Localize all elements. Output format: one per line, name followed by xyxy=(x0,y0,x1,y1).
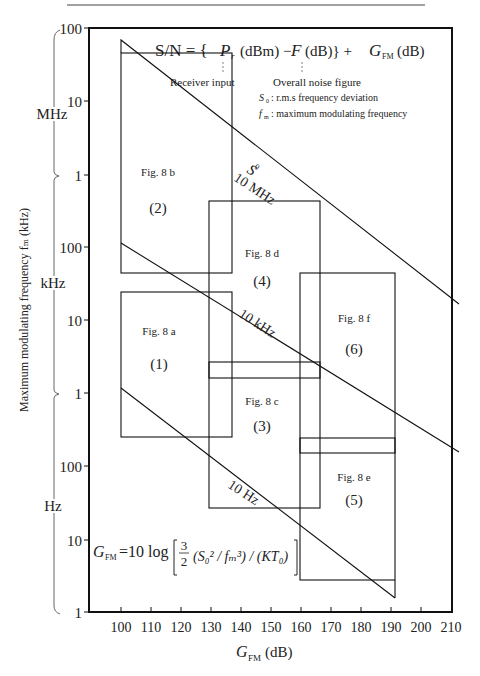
region-8c-box xyxy=(209,362,320,508)
svg-text:130: 130 xyxy=(201,620,222,635)
s0-lines xyxy=(121,40,459,598)
svg-text:F: F xyxy=(290,41,302,60)
svg-text:100: 100 xyxy=(111,620,132,635)
svg-text:G: G xyxy=(236,643,248,660)
svg-text:(dB): (dB) xyxy=(397,43,425,60)
svg-text:Fig. 8 f: Fig. 8 f xyxy=(338,312,370,324)
svg-text:10: 10 xyxy=(67,313,82,329)
svg-text:(dB): (dB) xyxy=(265,644,293,661)
svg-text:1: 1 xyxy=(75,386,83,402)
svg-text:FM: FM xyxy=(248,653,261,663)
svg-text:Hz: Hz xyxy=(44,498,62,514)
svg-text:Fig. 8 e: Fig. 8 e xyxy=(337,471,370,483)
unit-labels: MHz kHz Hz xyxy=(37,106,68,514)
gfm-formula: G FM =10 log 3 2 (S₀² / fₘ³) / (KT₀) xyxy=(93,538,297,575)
svg-text:(6): (6) xyxy=(345,341,363,358)
line-labels: S 0 10 MHz 10 kHz 10 Hz xyxy=(225,161,278,508)
svg-text:1: 1 xyxy=(75,168,83,184)
svg-text:S/N = {: S/N = { xyxy=(155,41,208,60)
svg-text:(5): (5) xyxy=(345,492,363,509)
svg-text:0: 0 xyxy=(266,98,269,104)
svg-text:190: 190 xyxy=(381,620,402,635)
svg-text:: r.m.s frequency deviation: : r.m.s frequency deviation xyxy=(271,92,378,103)
svg-text:(1): (1) xyxy=(150,356,168,373)
y-axis-label: Maximum modulating frequency fₘ (kHz) xyxy=(17,208,31,412)
svg-text:Fig. 8 c: Fig. 8 c xyxy=(245,395,278,407)
svg-text:S: S xyxy=(259,92,264,103)
svg-text:3: 3 xyxy=(181,538,188,553)
svg-text:160: 160 xyxy=(291,620,312,635)
svg-text:=10 log: =10 log xyxy=(119,543,168,561)
svg-text:(dBm) −: (dBm) − xyxy=(240,43,291,60)
svg-text:2: 2 xyxy=(181,554,188,569)
svg-text:100: 100 xyxy=(60,459,83,475)
svg-text:f: f xyxy=(259,108,263,119)
svg-text:(dB)} +: (dB)} + xyxy=(305,43,352,60)
svg-text:FM: FM xyxy=(382,52,394,61)
svg-text:Fig. 8 b: Fig. 8 b xyxy=(141,166,175,178)
sn-formula: S/N = { P r (dBm) − F (dB)} + G FM (dB) xyxy=(155,41,425,61)
svg-text:kHz: kHz xyxy=(41,275,66,291)
legend: S 0 : r.m.s frequency deviation f m : ma… xyxy=(259,92,407,120)
svg-text:Fig. 8 d: Fig. 8 d xyxy=(245,247,279,259)
gfm-chart: 100 10 1 100 10 1 100 10 1 MHz kHz Hz Ma… xyxy=(0,0,480,676)
svg-text:120: 120 xyxy=(171,620,192,635)
svg-text:: maximum modulating frequency: : maximum modulating frequency xyxy=(271,108,407,119)
svg-text:10 MHz: 10 MHz xyxy=(231,170,278,208)
svg-text:MHz: MHz xyxy=(37,106,68,122)
svg-text:10: 10 xyxy=(67,533,82,549)
svg-text:G: G xyxy=(369,41,381,60)
svg-text:Fig. 8 a: Fig. 8 a xyxy=(142,325,175,337)
svg-text:G: G xyxy=(93,543,105,560)
svg-text:(2): (2) xyxy=(149,200,167,217)
svg-text:P: P xyxy=(219,41,230,60)
svg-text:(4): (4) xyxy=(253,273,271,290)
line-10khz xyxy=(121,243,459,452)
svg-text:210: 210 xyxy=(441,620,462,635)
svg-text:(3): (3) xyxy=(253,418,271,435)
x-axis-label: G FM (dB) xyxy=(236,643,293,663)
svg-text:100: 100 xyxy=(60,21,83,37)
svg-text:150: 150 xyxy=(261,620,282,635)
svg-text:10 kHz: 10 kHz xyxy=(236,306,278,341)
svg-text:(S₀² / fₘ³) / (KT₀): (S₀² / fₘ³) / (KT₀) xyxy=(193,549,288,565)
svg-text:m: m xyxy=(264,114,269,120)
region-8a-box xyxy=(121,292,232,437)
svg-text:110: 110 xyxy=(141,620,161,635)
x-tick-labels: 100 110 120 130 140 150 160 170 180 190 … xyxy=(111,620,462,635)
region-labels: Fig. 8 b (2) Fig. 8 a (1) Fig. 8 d (4) F… xyxy=(141,166,371,509)
noise-figure-label: Overall noise figure xyxy=(273,76,361,88)
svg-text:100: 100 xyxy=(60,240,83,256)
svg-text:1: 1 xyxy=(75,605,83,621)
svg-text:180: 180 xyxy=(351,620,372,635)
svg-text:200: 200 xyxy=(411,620,432,635)
svg-text:10: 10 xyxy=(67,94,82,110)
svg-text:170: 170 xyxy=(321,620,342,635)
region-8e-box xyxy=(300,438,395,580)
region-8d-box xyxy=(209,201,320,378)
svg-text:140: 140 xyxy=(231,620,252,635)
svg-text:FM: FM xyxy=(105,553,117,562)
